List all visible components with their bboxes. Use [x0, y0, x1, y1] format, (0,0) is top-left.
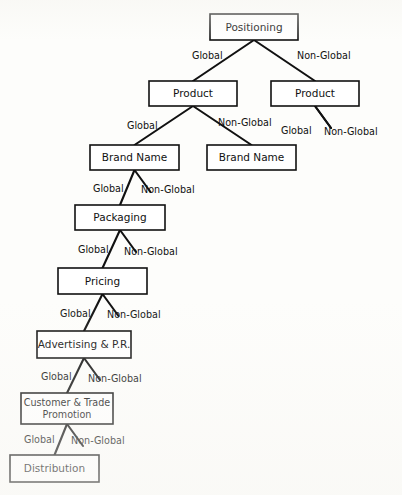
node-brand-left[interactable]: Brand Name	[90, 145, 179, 170]
edge-label-positioning-nonglobal: Non-Global	[297, 50, 351, 61]
node-positioning[interactable]: Positioning	[210, 14, 298, 40]
nodes-layer: PositioningProductProductBrand NameBrand…	[10, 14, 359, 482]
edge-label-customer-nonglobal: Non-Global	[71, 435, 125, 446]
node-label-positioning: Positioning	[225, 21, 282, 33]
node-advertising[interactable]: Advertising & P.R.	[37, 331, 131, 358]
edge-label-product-right-global: Global	[281, 125, 312, 136]
edge-label-advertising-global: Global	[41, 371, 72, 382]
decision-tree-canvas: PositioningProductProductBrand NameBrand…	[0, 0, 402, 495]
edge-label-positioning-global: Global	[192, 50, 223, 61]
edge-labels-layer: GlobalNon-GlobalGlobalNon-GlobalGlobalNo…	[24, 50, 378, 446]
node-label-advertising: Advertising & P.R.	[38, 338, 131, 350]
node-label-packaging: Packaging	[93, 211, 146, 223]
edge-label-pricing-nonglobal: Non-Global	[107, 309, 161, 320]
edge-customer-global	[55, 424, 68, 455]
edge-product-right-nonglobal	[315, 106, 331, 128]
node-brand-right[interactable]: Brand Name	[207, 145, 296, 170]
edge-label-pricing-global: Global	[60, 308, 91, 319]
node-pricing[interactable]: Pricing	[58, 268, 147, 294]
node-packaging[interactable]: Packaging	[75, 205, 165, 230]
node-label-customer-line2: Promotion	[43, 409, 92, 420]
edge-label-product-left-global: Global	[127, 120, 158, 131]
node-label-product-left: Product	[173, 87, 213, 99]
edge-label-brand-left-nonglobal: Non-Global	[141, 184, 195, 195]
node-label-product-right: Product	[295, 87, 335, 99]
node-customer[interactable]: Customer & TradePromotion	[21, 393, 113, 424]
edge-label-customer-global: Global	[24, 434, 55, 445]
edge-label-advertising-nonglobal: Non-Global	[88, 373, 142, 384]
edge-label-product-right-nonglobal: Non-Global	[324, 126, 378, 137]
node-product-left[interactable]: Product	[149, 81, 237, 106]
node-label-brand-right: Brand Name	[219, 151, 285, 163]
edge-label-packaging-nonglobal: Non-Global	[124, 246, 178, 257]
node-label-brand-left: Brand Name	[102, 151, 168, 163]
decision-tree-diagram: PositioningProductProductBrand NameBrand…	[0, 0, 402, 495]
edge-label-packaging-global: Global	[78, 244, 109, 255]
edge-label-brand-left-global: Global	[93, 183, 124, 194]
node-product-right[interactable]: Product	[271, 81, 359, 106]
node-label-distribution: Distribution	[24, 462, 85, 474]
node-distribution[interactable]: Distribution	[10, 455, 99, 482]
node-label-pricing: Pricing	[85, 275, 120, 287]
edge-label-product-left-nonglobal: Non-Global	[218, 117, 272, 128]
node-label-customer-line1: Customer & Trade	[24, 397, 111, 408]
